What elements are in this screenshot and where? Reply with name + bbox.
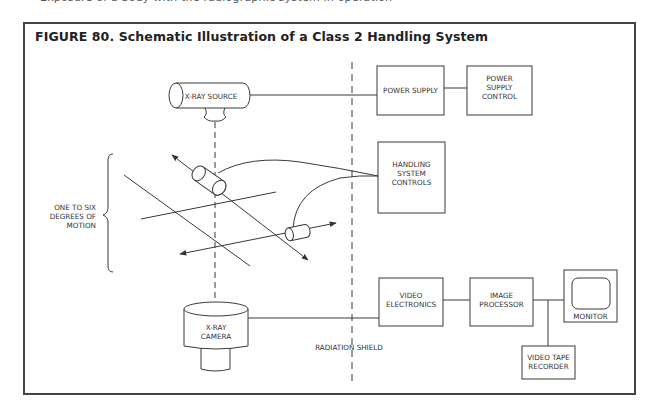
motion-label-3: MOTION <box>67 221 96 230</box>
power-supply-control-label-3: CONTROL <box>482 92 517 101</box>
xray-source-icon <box>169 83 250 121</box>
motion-axis-arrow-1 <box>172 155 308 260</box>
xray-source-label: X-RAY SOURCE <box>185 92 238 101</box>
motion-label-2: DEGREES OF <box>50 212 96 221</box>
power-supply-label: POWER SUPPLY <box>383 86 438 95</box>
vtr-label-2: RECORDER <box>528 362 568 371</box>
schematic-diagram: X-RAY SOURCE POWER SUPPLY POWER SUPPLY C… <box>0 0 656 418</box>
handling-controls-label-3: CONTROLS <box>392 178 432 187</box>
motion-brace <box>103 154 113 272</box>
power-supply-control-label-1: POWER <box>486 74 513 83</box>
handling-controls-label-2: SYSTEM <box>397 169 426 178</box>
manipulator-lower-icon <box>284 224 311 242</box>
image-processor-label-2: PROCESSOR <box>479 300 523 309</box>
xray-camera-label-2: CAMERA <box>201 332 231 341</box>
motion-axis-horizontal <box>141 192 276 219</box>
video-electronics-label-2: ELECTRONICS <box>386 300 437 309</box>
video-electronics-label-1: VIDEO <box>400 291 423 300</box>
image-processor-label-1: IMAGE <box>490 291 514 300</box>
handling-controls-label-1: HANDLING <box>392 160 430 169</box>
monitor-label: MONITOR <box>573 312 607 321</box>
radiation-shield-label: RADIATION SHIELD <box>315 343 383 352</box>
motion-axis-arrow-2 <box>180 223 336 254</box>
power-supply-control-label-2: SUPPLY <box>487 83 514 92</box>
figure-page: Exposure of a body with the radiographic… <box>0 0 656 418</box>
xray-camera-label-1: X-RAY <box>206 323 227 332</box>
vtr-label-1: VIDEO TAPE <box>527 353 570 362</box>
manipulator-upper-icon <box>189 163 228 197</box>
motion-label-1: ONE TO SIX <box>54 203 96 212</box>
